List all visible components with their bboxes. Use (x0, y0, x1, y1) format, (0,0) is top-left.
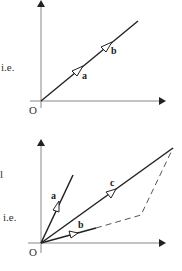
vector-c-label: c (110, 177, 115, 188)
vector-a-label: a (82, 70, 87, 81)
y-axis-arrow-icon (37, 0, 45, 7)
vector-b-arrow-icon (69, 231, 78, 238)
top-diagram: a b i.e. O (1, 0, 166, 116)
vector-c-arrow-icon (106, 189, 116, 198)
bottom-diagram: a b c ll i.e. O (0, 139, 173, 258)
side-text-ie: i.e. (3, 211, 17, 223)
origin-label: O (29, 246, 37, 258)
parallelogram-dashed-edges (96, 148, 173, 228)
vector-a-label: a (51, 190, 56, 201)
collinear-line (41, 21, 138, 101)
vector-c (41, 148, 173, 243)
x-axis-arrow-icon (159, 97, 166, 105)
vector-diagrams: a b i.e. O a b c ll i.e. O (0, 0, 182, 271)
vector-b-label: b (111, 45, 117, 56)
origin-label: O (29, 104, 37, 116)
x-axis-arrow-icon (159, 239, 166, 247)
side-text-ie: i.e. (1, 61, 15, 73)
vector-b-label: b (78, 219, 84, 230)
partial-text: ll (0, 168, 3, 180)
y-axis-arrow-icon (37, 139, 45, 146)
vector-b (41, 228, 96, 243)
vector-a-arrow-icon (53, 201, 59, 212)
